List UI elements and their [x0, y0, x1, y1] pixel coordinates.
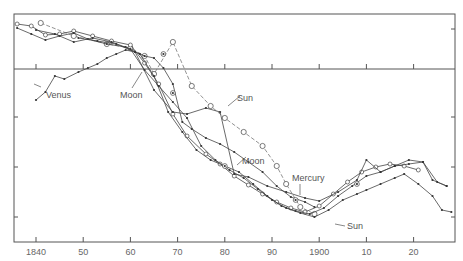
data-point — [106, 43, 108, 45]
data-point — [422, 161, 424, 163]
data-point — [261, 171, 263, 173]
data-point — [210, 159, 212, 161]
data-point — [323, 207, 325, 209]
data-point — [309, 213, 311, 215]
data-point — [313, 216, 315, 218]
data-point — [328, 209, 330, 211]
data-point — [233, 151, 235, 153]
data-point — [219, 143, 221, 145]
data-point — [172, 83, 174, 85]
x-tick-label: 70 — [173, 247, 183, 257]
data-point — [87, 67, 89, 69]
data-point — [365, 189, 367, 191]
series-mercury — [16, 27, 448, 215]
data-point — [181, 131, 183, 133]
data-point — [431, 179, 433, 181]
data-point — [436, 181, 438, 183]
data-point — [153, 89, 155, 91]
data-point — [115, 43, 117, 45]
data-point — [125, 49, 127, 51]
data-point — [134, 51, 136, 53]
data-point — [241, 129, 246, 134]
data-point — [257, 188, 259, 190]
series-line — [17, 28, 447, 214]
series-line — [79, 38, 447, 201]
data-point — [205, 107, 207, 109]
data-point — [128, 43, 132, 47]
data-point — [181, 121, 183, 123]
data-point — [186, 117, 188, 119]
data-point — [205, 137, 207, 139]
x-tick-label: 50 — [78, 247, 88, 257]
data-point — [189, 83, 194, 88]
data-point — [170, 39, 175, 44]
data-point — [337, 191, 339, 193]
data-point — [106, 57, 108, 59]
data-point — [247, 176, 249, 178]
marker-center — [224, 165, 226, 167]
data-point — [450, 211, 452, 213]
series-venus — [35, 49, 316, 208]
data-point — [172, 111, 174, 113]
data-point — [299, 212, 301, 214]
data-point — [285, 207, 287, 209]
chart-canvas: 1840506070809019001020 VenusMoonSunMoonM… — [0, 0, 463, 261]
data-point — [153, 75, 155, 77]
data-point — [337, 195, 339, 197]
series-sun-dashed-circles- — [38, 20, 317, 216]
y-axis — [14, 29, 455, 217]
x-tick-label: 1900 — [309, 247, 329, 257]
data-point — [158, 85, 160, 87]
data-point — [346, 180, 350, 184]
data-point — [271, 199, 273, 201]
data-point — [379, 171, 381, 173]
data-point — [342, 199, 344, 201]
data-point — [16, 27, 18, 29]
data-point — [356, 179, 358, 181]
data-point — [356, 193, 358, 195]
data-point — [96, 63, 98, 65]
data-point — [30, 33, 32, 35]
data-point — [228, 169, 230, 171]
data-point — [403, 173, 405, 175]
data-point — [63, 78, 65, 80]
data-point — [284, 181, 289, 186]
data-point — [417, 183, 419, 185]
marker-center — [356, 183, 358, 185]
marker-center — [295, 199, 297, 201]
series-line — [36, 50, 315, 207]
data-point — [233, 173, 235, 175]
data-point — [408, 163, 410, 165]
data-point — [29, 24, 33, 28]
data-point — [208, 103, 213, 108]
data-point — [35, 29, 37, 31]
marker-center — [162, 53, 164, 55]
data-point — [139, 53, 141, 55]
data-point — [73, 41, 75, 43]
series-line — [36, 30, 451, 217]
data-point — [318, 200, 320, 202]
data-point — [298, 204, 303, 209]
series-layer — [15, 20, 452, 218]
data-point — [394, 177, 396, 179]
data-point — [77, 37, 79, 39]
data-point — [38, 20, 43, 25]
data-point — [44, 39, 46, 41]
data-point — [394, 165, 396, 167]
data-point — [365, 175, 367, 177]
data-point — [351, 185, 353, 187]
leader-line — [34, 84, 41, 87]
special-markers — [161, 52, 359, 203]
annotation-label: Sun — [237, 93, 253, 103]
data-point — [35, 99, 37, 101]
annotation-label: Sun — [347, 221, 363, 231]
data-point — [167, 111, 169, 113]
data-point — [274, 163, 279, 168]
plot-frame — [14, 14, 455, 242]
annotation-label: Venus — [46, 90, 72, 100]
data-point — [246, 183, 250, 187]
data-point — [219, 111, 221, 113]
x-tick-label: 80 — [220, 247, 230, 257]
data-point — [143, 55, 145, 57]
data-point — [365, 159, 367, 161]
